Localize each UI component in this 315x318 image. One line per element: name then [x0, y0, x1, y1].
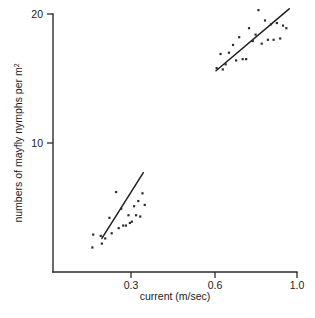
data-point: [232, 44, 234, 46]
data-point: [216, 67, 218, 69]
data-point: [257, 9, 259, 11]
data-point: [270, 23, 272, 25]
data-point: [125, 224, 127, 226]
data-point: [252, 40, 254, 42]
data-point: [222, 68, 224, 70]
data-point: [273, 39, 275, 41]
x-tick-label: 1.0: [290, 279, 305, 291]
x-tick-label: 0.3: [124, 279, 139, 291]
data-point: [92, 233, 94, 235]
data-point: [261, 43, 263, 45]
y-axis-title-superscript: 2: [13, 63, 20, 67]
data-point: [144, 204, 146, 206]
data-point: [127, 214, 129, 216]
data-point: [219, 53, 221, 55]
data-point: [245, 58, 247, 60]
data-point: [264, 19, 266, 21]
data-point: [225, 63, 227, 65]
y-axis-title-text: numbers of mayfly nymphs per m: [12, 67, 24, 222]
data-point: [228, 52, 230, 54]
data-point: [248, 27, 250, 29]
data-point: [104, 237, 106, 239]
data-point: [131, 221, 133, 223]
data-point: [101, 243, 103, 245]
data-point: [238, 36, 240, 38]
data-point: [118, 227, 120, 229]
data-point: [242, 58, 244, 60]
trend-line: [102, 173, 143, 239]
data-point: [122, 224, 124, 226]
data-point: [276, 22, 278, 24]
data-point: [267, 39, 269, 41]
data-points: [91, 9, 287, 249]
x-axis-ticks: 0.30.61.0: [124, 272, 305, 291]
data-point: [120, 208, 122, 210]
data-point: [279, 37, 281, 39]
data-point: [111, 232, 113, 234]
trend-line: [216, 9, 289, 71]
y-tick-label: 20: [31, 8, 43, 20]
data-point: [141, 192, 143, 194]
data-point: [115, 191, 117, 193]
data-point: [139, 215, 141, 217]
data-point: [254, 34, 256, 36]
data-point: [282, 25, 284, 27]
data-point: [108, 217, 110, 219]
data-point: [137, 200, 139, 202]
y-axis-title: numbers of mayfly nymphs per m2: [12, 63, 24, 222]
y-tick-label: 10: [31, 137, 43, 149]
data-point: [235, 59, 237, 61]
data-point: [285, 27, 287, 29]
plot-canvas: 1020 0.30.61.0 current (m/sec) numbers o…: [0, 0, 315, 318]
data-point: [100, 235, 102, 237]
data-point: [133, 205, 135, 207]
data-point: [135, 214, 137, 216]
scatter-plot-figure: 1020 0.30.61.0 current (m/sec) numbers o…: [0, 0, 315, 318]
data-point: [91, 246, 93, 248]
data-point: [129, 222, 131, 224]
x-axis-title: current (m/sec): [140, 290, 211, 302]
y-axis-ticks: 1020: [31, 8, 53, 149]
